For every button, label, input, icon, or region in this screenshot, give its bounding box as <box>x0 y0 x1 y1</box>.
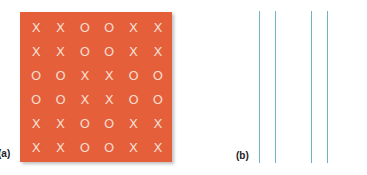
x-symbol: X <box>146 111 170 135</box>
x-symbol: X <box>24 135 48 159</box>
o-symbol: O <box>121 63 145 87</box>
vertical-line <box>327 11 328 163</box>
x-symbol: X <box>146 39 170 63</box>
x-symbol: X <box>24 39 48 63</box>
x-symbol: X <box>97 63 121 87</box>
o-symbol: O <box>146 63 170 87</box>
o-symbol: O <box>121 87 145 111</box>
o-symbol: O <box>73 15 97 39</box>
o-symbol: O <box>97 111 121 135</box>
o-symbol: O <box>73 39 97 63</box>
o-symbol: O <box>48 63 72 87</box>
vertical-line <box>311 11 312 163</box>
o-symbol: O <box>73 135 97 159</box>
x-symbol: X <box>121 135 145 159</box>
x-symbol: X <box>48 15 72 39</box>
xo-grid: XXOOXXXXOOXXOOXXOOOOXXOOXXOOXXXXOOXX <box>24 15 170 159</box>
x-symbol: X <box>73 63 97 87</box>
o-symbol: O <box>48 87 72 111</box>
x-symbol: X <box>24 111 48 135</box>
x-symbol: X <box>146 15 170 39</box>
panel-b-label: (b) <box>236 150 249 161</box>
x-symbol: X <box>48 135 72 159</box>
x-symbol: X <box>97 87 121 111</box>
o-symbol: O <box>24 87 48 111</box>
x-symbol: X <box>121 39 145 63</box>
x-symbol: X <box>48 39 72 63</box>
o-symbol: O <box>73 111 97 135</box>
o-symbol: O <box>97 15 121 39</box>
x-symbol: X <box>48 111 72 135</box>
o-symbol: O <box>24 63 48 87</box>
vertical-line <box>259 11 260 163</box>
o-symbol: O <box>97 135 121 159</box>
o-symbol: O <box>97 39 121 63</box>
x-symbol: X <box>121 111 145 135</box>
o-symbol: O <box>146 87 170 111</box>
x-symbol: X <box>146 135 170 159</box>
x-symbol: X <box>24 15 48 39</box>
panel-a-label: (a) <box>0 148 10 159</box>
xo-pattern-panel: XXOOXXXXOOXXOOXXOOOOXXOOXXOOXXXXOOXX <box>20 12 172 162</box>
x-symbol: X <box>121 15 145 39</box>
vertical-line <box>275 11 276 163</box>
x-symbol: X <box>73 87 97 111</box>
